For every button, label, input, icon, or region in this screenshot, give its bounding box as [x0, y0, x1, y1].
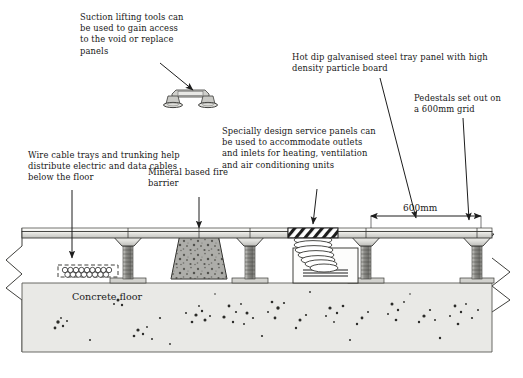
raised-floor-panels: [22, 228, 492, 238]
cable-tray: [58, 265, 118, 277]
label-pedestals-grid: Pedestals set out on a 600mm grid: [414, 93, 501, 115]
diagram-canvas: Suction lifting tools can be used to gai…: [0, 0, 523, 378]
leader-pedestals: [463, 118, 469, 220]
mineral-fire-barrier: [171, 234, 227, 279]
pedestal: [460, 231, 494, 283]
pedestal: [110, 231, 146, 283]
label-dimension-600mm: 600mm: [403, 203, 437, 213]
label-suction-lifting-tools: Suction lifting tools can be used to gai…: [80, 12, 184, 57]
leader-suction: [160, 63, 193, 90]
break-line-left: [6, 228, 22, 352]
break-line-right: [492, 258, 510, 312]
service-panel-assembly: [293, 231, 358, 283]
label-concrete-floor: Concrete floor: [72, 291, 142, 302]
leader-service-panel: [313, 189, 317, 224]
leader-hot-dip-panel: [380, 78, 416, 218]
suction-lifting-tool: [164, 90, 218, 108]
dimension-600mm: [371, 216, 481, 228]
label-service-panels: Specially design service panels can be u…: [222, 126, 376, 171]
label-hot-dip-panel: Hot dip galvanised steel tray panel with…: [292, 52, 488, 74]
label-fire-barrier: Mineral based fire barrier: [148, 167, 228, 189]
service-floor-panel: [288, 228, 338, 238]
pedestal: [232, 231, 268, 283]
